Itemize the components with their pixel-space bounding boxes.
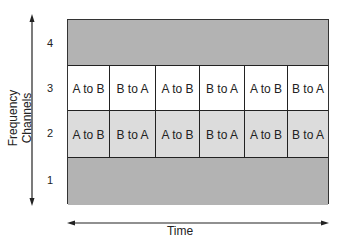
x-axis-title: Time — [167, 224, 193, 236]
channel-1-label: 1 — [44, 174, 56, 186]
slot: B to A — [110, 111, 156, 158]
slot: B to A — [288, 66, 328, 111]
slot: A to B — [156, 111, 200, 158]
channel-4-label: 4 — [44, 37, 56, 49]
slot: B to A — [200, 111, 245, 158]
slot: B to A — [110, 66, 156, 111]
channel-3-row: A to B B to A A to B B to A A to B B to … — [68, 66, 328, 111]
channel-3-label: 3 — [44, 82, 56, 94]
slot: A to B — [68, 66, 110, 111]
slot: A to B — [156, 66, 200, 111]
channel-2-label: 2 — [44, 127, 56, 139]
slot: A to B — [245, 66, 288, 111]
slot: A to B — [245, 111, 288, 158]
y-axis-title: Frequency Channels — [6, 68, 34, 168]
slot: A to B — [68, 111, 110, 158]
slot: B to A — [200, 66, 245, 111]
channel-1-band — [68, 158, 328, 205]
channel-4-band — [68, 20, 328, 66]
channel-2-row: A to B B to A A to B B to A A to B B to … — [68, 111, 328, 158]
slot: B to A — [288, 111, 328, 158]
channel-grid: A to B B to A A to B B to A A to B B to … — [67, 19, 329, 204]
